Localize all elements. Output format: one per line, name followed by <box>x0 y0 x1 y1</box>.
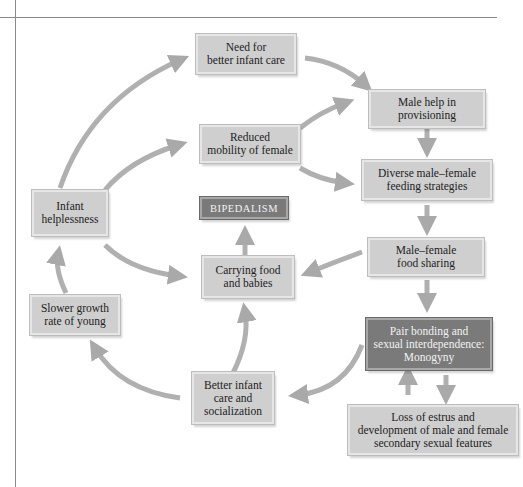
node-label: Infant helplessness <box>42 200 99 226</box>
node-diverse-feeding: Diverse male–female feeding strategies <box>362 160 492 200</box>
node-label: Pair bonding and sexual interdependence:… <box>374 325 485 364</box>
node-label: BIPEDALISM <box>210 202 278 215</box>
node-food-sharing: Male–female food sharing <box>368 238 484 276</box>
arrow-helplessness-to-mobility <box>105 145 178 190</box>
arrow-need-to-malehelp <box>305 58 365 85</box>
node-pair-bonding: Pair bonding and sexual interdependence:… <box>366 318 492 370</box>
arrow-slowergrowth-to-helplessness <box>57 255 66 293</box>
node-bipedalism: BIPEDALISM <box>200 197 288 219</box>
node-infant-helplessness: Infant helplessness <box>32 190 108 236</box>
node-label: Diverse male–female feeding strategies <box>378 167 476 193</box>
arrow-helplessness-to-need <box>60 60 180 188</box>
node-label: Better infant care and socialization <box>204 379 262 418</box>
arrow-helplessness-to-carrying <box>105 245 178 276</box>
arrow-pairbonding-to-bettercare <box>298 345 362 395</box>
node-need-infant-care: Need for better infant care <box>196 34 296 74</box>
arrow-bettercare-to-slowergrowth <box>95 348 180 398</box>
node-reduced-mobility: Reduced mobility of female <box>200 125 300 163</box>
arrow-mobility-to-diverse <box>300 168 345 183</box>
node-slower-growth: Slower growth rate of young <box>30 295 120 335</box>
arrow-bettercare-to-carrying <box>232 312 246 375</box>
node-label: Male–female food sharing <box>396 244 457 270</box>
arrow-mobility-to-malehelp <box>300 103 345 128</box>
arrow-foodsharing-to-carrying <box>310 252 362 272</box>
node-better-care: Better infant care and socialization <box>192 372 274 424</box>
node-loss-estrus: Loss of estrus and development of male a… <box>348 405 518 455</box>
node-label: Reduced mobility of female <box>207 131 293 157</box>
node-label: Slower growth rate of young <box>41 302 109 328</box>
node-label: Carrying food and babies <box>216 264 281 290</box>
node-male-help: Male help in provisioning <box>369 90 485 128</box>
node-label: Male help in provisioning <box>398 96 456 122</box>
node-label: Need for better infant care <box>207 41 285 67</box>
node-label: Loss of estrus and development of male a… <box>358 411 509 450</box>
node-carrying: Carrying food and babies <box>202 256 294 298</box>
